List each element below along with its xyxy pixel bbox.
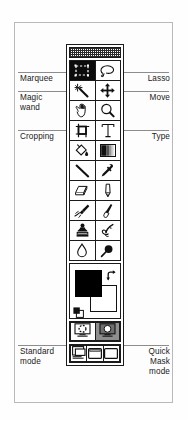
dodge-burn-tool[interactable] [96,241,121,260]
label-cropping: Cropping [20,132,54,142]
type-t-icon [101,123,115,138]
full-screen-button[interactable] [104,346,119,361]
type-tool[interactable] [96,121,121,140]
color-swatch-block [69,263,121,319]
full-screen-with-menu-button[interactable] [87,346,102,361]
lasso-tool[interactable] [96,61,121,80]
standard-mode-button[interactable] [71,323,95,340]
crop-icon [75,123,90,138]
paint-bucket-icon [74,143,90,158]
rubber-stamp-icon [75,223,90,238]
marquee-icon [74,64,90,77]
label-move: Move [150,93,170,103]
standard-screen-icon [72,345,86,363]
diagram-canvas: Marquee Magic wand Cropping Standard mod… [0,0,188,421]
full-screen-icon [104,345,118,363]
tool-grid [69,60,121,261]
label-standard-mode: Standard mode [20,347,54,367]
airbrush-icon [74,203,90,218]
paint-bucket-tool[interactable] [70,141,95,160]
eyedropper-tool[interactable] [96,161,121,180]
eraser-tool[interactable] [70,181,95,200]
toolbox-title-bar[interactable] [69,47,121,58]
smudge-finger-icon [100,223,115,238]
swap-colors-icon[interactable] [106,267,117,278]
magic-wand-icon [74,83,90,98]
rectangular-marquee-tool[interactable] [70,61,95,80]
foreground-color-swatch[interactable] [75,270,102,297]
crop-tool[interactable] [70,121,95,140]
hand-tool[interactable] [70,101,95,120]
airbrush-tool[interactable] [70,201,95,220]
gradient-tool[interactable] [96,141,121,160]
hand-icon [75,103,90,118]
default-colors-icon[interactable] [73,304,84,315]
label-quick-mask-mode: Quick Mask mode [149,347,170,378]
blur-tool[interactable] [70,241,95,260]
label-type: Type [152,132,170,142]
eyedropper-icon [100,163,115,178]
screen-mode-row [69,344,121,363]
label-lasso: Lasso [148,74,170,84]
line-icon [75,164,90,178]
move-tool[interactable] [96,81,121,100]
paintbrush-icon [101,203,114,218]
eraser-icon [74,185,90,197]
photoshop-toolbox [66,44,124,366]
quick-mask-mode-button[interactable] [96,323,120,340]
magic-wand-tool[interactable] [70,81,95,100]
pencil-icon [102,183,114,198]
label-marquee: Marquee [20,74,53,84]
full-screen-menu-icon [88,345,102,363]
zoom-tool[interactable] [96,101,121,120]
dodge-lollipop-icon [100,244,115,258]
rubber-stamp-tool[interactable] [70,221,95,240]
pencil-tool[interactable] [96,181,121,200]
water-drop-icon [76,243,88,258]
quick-mask-icon [99,323,116,341]
gradient-icon [100,144,116,157]
label-magic-wand: Magic wand [20,93,42,113]
lasso-icon [99,64,116,78]
magnifier-icon [100,103,115,118]
move-icon [100,83,115,98]
standard-screen-mode-button[interactable] [71,346,86,361]
standard-mode-icon [74,323,91,341]
smudge-tool[interactable] [96,221,121,240]
line-tool[interactable] [70,161,95,180]
mask-mode-row [69,321,121,342]
paintbrush-tool[interactable] [96,201,121,220]
